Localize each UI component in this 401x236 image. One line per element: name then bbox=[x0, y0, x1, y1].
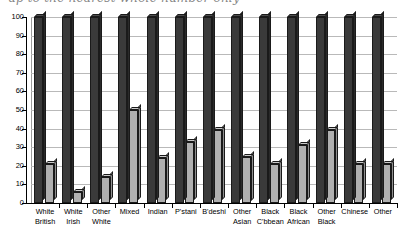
x-axis-label-line: Black bbox=[313, 217, 341, 227]
bar-side bbox=[71, 11, 74, 200]
bar-series-1-9 bbox=[287, 17, 296, 203]
x-axis-label-line: Asian bbox=[228, 217, 256, 227]
x-axis-label-line: White bbox=[87, 217, 115, 227]
y-tick-mark bbox=[22, 184, 27, 185]
bar-face bbox=[287, 17, 296, 203]
bar-group bbox=[313, 17, 341, 203]
bar-side bbox=[363, 158, 366, 200]
bar-face bbox=[316, 17, 325, 203]
bar-side bbox=[381, 11, 384, 200]
bar-side bbox=[166, 152, 169, 200]
bar-side bbox=[138, 104, 141, 200]
bar-chart: up to the nearest whole number only 1009… bbox=[0, 0, 401, 236]
bar-face bbox=[90, 17, 99, 203]
page-title: up to the nearest whole number only bbox=[8, 0, 240, 5]
bar-group bbox=[200, 17, 228, 203]
bar-face bbox=[101, 177, 110, 203]
bar-series-2-9 bbox=[298, 145, 307, 203]
x-axis-label-5: P'stani bbox=[172, 207, 200, 217]
x-axis-label-line: British bbox=[31, 217, 59, 227]
y-tick-label: 50 bbox=[0, 106, 24, 114]
x-axis-label-9: BlackAfrican bbox=[284, 207, 312, 226]
x-axis-label-line: Other bbox=[228, 207, 256, 217]
bar-face bbox=[62, 17, 71, 203]
bar-group bbox=[115, 17, 143, 203]
bar-side bbox=[240, 11, 243, 200]
y-tick-label: 20 bbox=[0, 162, 24, 170]
bar-series-1-0 bbox=[34, 17, 43, 203]
y-tick-mark bbox=[22, 147, 27, 148]
bar-side bbox=[296, 11, 299, 200]
y-tick-mark bbox=[22, 36, 27, 37]
bar-series-1-10 bbox=[316, 17, 325, 203]
bar-series-1-7 bbox=[231, 17, 240, 203]
bar-side bbox=[43, 11, 46, 200]
bar-group bbox=[31, 17, 59, 203]
x-axis-label-10: OtherBlack bbox=[313, 207, 341, 226]
bar-series-1-2 bbox=[90, 17, 99, 203]
x-axis-label-11: Chinese bbox=[341, 207, 369, 217]
bar-side bbox=[279, 158, 282, 200]
bar-face bbox=[259, 17, 268, 203]
x-axis-label-line: C'bbean bbox=[256, 217, 284, 227]
y-tick-label: 10 bbox=[0, 180, 24, 188]
bar-face bbox=[298, 145, 307, 203]
y-tick-label: 70 bbox=[0, 69, 24, 77]
y-tick-label: 40 bbox=[0, 125, 24, 133]
x-axis-label-1: WhiteIrish bbox=[59, 207, 87, 226]
bar-series-1-5 bbox=[175, 17, 184, 203]
x-axis-label-2: OtherWhite bbox=[87, 207, 115, 226]
x-axis-label-6: B'deshi bbox=[200, 207, 228, 217]
bar-face bbox=[344, 17, 353, 203]
bar-group bbox=[256, 17, 284, 203]
bar-side bbox=[391, 158, 394, 200]
x-axis-label-line: P'stani bbox=[172, 207, 200, 217]
bar-group bbox=[341, 17, 369, 203]
bar-group bbox=[369, 17, 397, 203]
bar-side bbox=[307, 139, 310, 200]
x-axis-label-line: Irish bbox=[59, 217, 87, 227]
bar-face bbox=[147, 17, 156, 203]
y-tick-mark bbox=[22, 17, 27, 18]
x-axis-label-line: B'deshi bbox=[200, 207, 228, 217]
x-axis-label-line: Other bbox=[369, 207, 397, 217]
x-axis-line bbox=[26, 203, 398, 204]
y-tick-label: 0 bbox=[0, 199, 24, 207]
y-tick-label: 60 bbox=[0, 87, 24, 95]
bar-face bbox=[372, 17, 381, 203]
bar-face bbox=[231, 17, 240, 203]
bar-series-1-1 bbox=[62, 17, 71, 203]
y-tick-mark bbox=[22, 110, 27, 111]
bar-face bbox=[203, 17, 212, 203]
bar-face bbox=[34, 17, 43, 203]
x-axis-label-4: Indian bbox=[144, 207, 172, 217]
bar-side bbox=[325, 11, 328, 200]
bar-series-2-8 bbox=[270, 164, 279, 203]
bar-side bbox=[212, 11, 215, 200]
bar-group bbox=[144, 17, 172, 203]
y-tick-mark bbox=[22, 129, 27, 130]
bar-side bbox=[82, 186, 85, 200]
bar-series-1-3 bbox=[118, 17, 127, 203]
y-tick-label: 30 bbox=[0, 143, 24, 151]
y-tick-label: 80 bbox=[0, 50, 24, 58]
x-axis-label-line: Black bbox=[256, 207, 284, 217]
bar-side bbox=[268, 11, 271, 200]
bar-side bbox=[251, 151, 254, 201]
x-axis-label-line: Mixed bbox=[115, 207, 143, 217]
y-tick-label: 100 bbox=[0, 13, 24, 21]
bar-series-1-8 bbox=[259, 17, 268, 203]
bar-side bbox=[156, 11, 159, 200]
x-axis-label-line: Other bbox=[313, 207, 341, 217]
y-tick-mark bbox=[22, 73, 27, 74]
bar-group bbox=[228, 17, 256, 203]
bar-side bbox=[99, 11, 102, 200]
y-tick-mark bbox=[22, 91, 27, 92]
bar-side bbox=[335, 124, 338, 200]
y-tick-label: 90 bbox=[0, 32, 24, 40]
bar-group bbox=[87, 17, 115, 203]
bar-series-2-3 bbox=[129, 110, 138, 203]
bar-group bbox=[59, 17, 87, 203]
x-axis-labels: WhiteBritishWhiteIrishOtherWhiteMixedInd… bbox=[31, 207, 397, 236]
bar-series-1-6 bbox=[203, 17, 212, 203]
